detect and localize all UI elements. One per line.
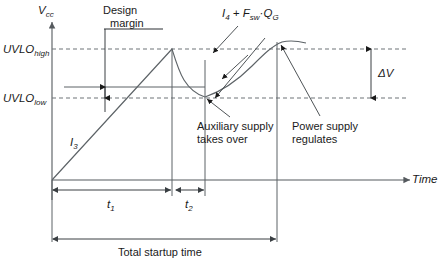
design-margin-label-line2: margin <box>110 17 144 29</box>
formula-label: I4 + Fsw·QG <box>222 7 279 22</box>
power-supply-label-line2: regulates <box>292 133 338 145</box>
decay-leader-line <box>222 55 248 79</box>
x-axis-label: Time <box>412 173 437 185</box>
uvlo-low-label: UVLOlow <box>3 92 48 107</box>
power-supply-label-line1: Power supply <box>292 120 359 132</box>
vcc-curve <box>52 41 306 180</box>
ramp-current-label: I3 <box>70 136 78 151</box>
design-margin-label-line1: Design <box>103 4 137 16</box>
y-axis-label: Vcc <box>38 4 54 19</box>
aux-supply-label-line1: Auxiliary supply <box>197 120 274 132</box>
power-supply-leader-line <box>281 45 320 116</box>
diagram-canvas: Vcc Time UVLOhigh UVLOlow Design margin … <box>0 0 439 262</box>
delta-v-label: ΔV <box>377 67 395 79</box>
aux-supply-leader-line <box>207 99 230 117</box>
total-startup-time-label: Total startup time <box>118 246 202 258</box>
t2-label: t2 <box>185 198 193 213</box>
regulation-peak-leader-line <box>215 38 265 98</box>
startup-timing-diagram: Vcc Time UVLOhigh UVLOlow Design margin … <box>0 0 439 262</box>
aux-supply-label-line2: takes over <box>197 133 248 145</box>
t1-label: t1 <box>107 198 115 213</box>
uvlo-high-label: UVLOhigh <box>3 43 50 58</box>
